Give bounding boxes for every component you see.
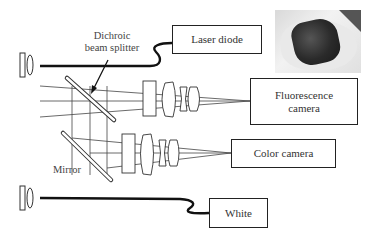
fiber-source-top-icon	[20, 53, 33, 77]
color-lens-group	[122, 134, 179, 175]
fluorescence-camera-box: Fluorescence camera	[250, 78, 358, 125]
device-photo	[275, 10, 361, 73]
white-light-box: White	[209, 198, 268, 228]
dichroic-label-line1: Dichroic	[78, 30, 146, 42]
fluorescence-lens-group	[143, 81, 200, 117]
dichroic-label-line2: beam splitter	[78, 42, 146, 54]
mirror-label: Mirror	[50, 164, 84, 176]
fiber-source-bottom-icon	[20, 186, 33, 210]
white-fiber-cable	[40, 198, 209, 213]
fluorescence-camera-line1: Fluorescence	[275, 89, 333, 102]
color-camera-box: Color camera	[231, 139, 336, 168]
dichroic-label: Dichroic beam splitter	[78, 30, 146, 54]
laser-diode-box: Laser diode	[172, 25, 262, 54]
fluorescence-camera-line2: camera	[288, 102, 320, 115]
